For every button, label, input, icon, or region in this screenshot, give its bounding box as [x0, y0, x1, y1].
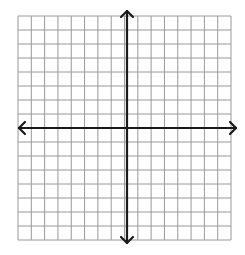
coordinate-plane [0, 0, 245, 255]
axes [19, 11, 236, 243]
